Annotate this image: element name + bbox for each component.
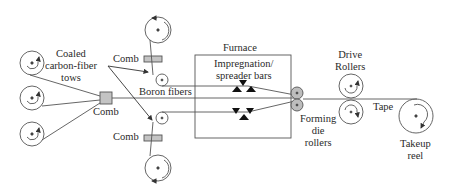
tows-line-3: tows <box>45 72 97 84</box>
label-comb-top: Comb <box>113 53 139 65</box>
takeup-line-2: reel <box>400 150 431 162</box>
tows-line-2: carbon-fiber <box>45 60 97 72</box>
label-boron-fibers: Boron fibers <box>139 86 192 98</box>
diagram-graphics <box>0 0 452 192</box>
impregnation-line-1: Impregnation/ <box>214 58 273 70</box>
forming-line-3: rollers <box>300 137 336 149</box>
label-tape: Tape <box>373 101 393 113</box>
forming-line-2: die <box>300 125 336 137</box>
tows-line-1: Coaled <box>45 48 97 60</box>
impregnation-line-2: spreader bars <box>214 70 273 82</box>
composite-tape-process-diagram: Coaled carbon-fiber tows Comb Comb Comb … <box>0 0 452 192</box>
label-impregnation-spreader-bars: Impregnation/ spreader bars <box>214 58 273 82</box>
label-furnace: Furnace <box>223 42 257 54</box>
label-comb-bottom: Comb <box>113 131 139 143</box>
label-takeup-reel: Takeup reel <box>400 138 431 162</box>
tow-spool-3 <box>20 122 44 146</box>
takeup-line-1: Takeup <box>400 138 431 150</box>
forming-line-1: Forming <box>300 113 336 125</box>
tow-spool-2 <box>20 86 44 110</box>
drive-line-2: Rollers <box>335 61 365 73</box>
drive-line-1: Drive <box>335 49 365 61</box>
label-coated-carbon-fiber-tows: Coaled carbon-fiber tows <box>45 48 97 84</box>
label-forming-die-rollers: Forming die rollers <box>300 113 336 149</box>
label-comb-center: Comb <box>93 106 119 118</box>
label-drive-rollers: Drive Rollers <box>335 49 365 73</box>
tow-spool-1 <box>20 51 44 75</box>
